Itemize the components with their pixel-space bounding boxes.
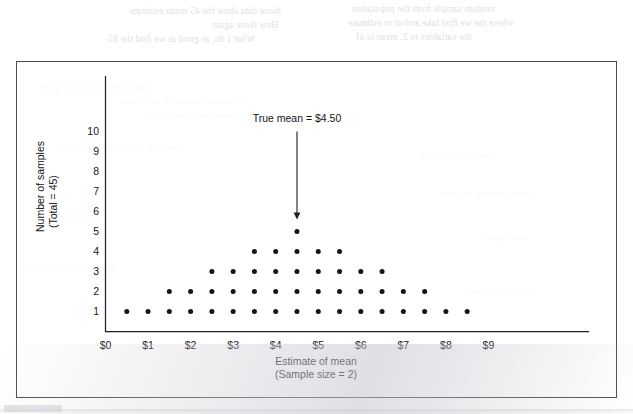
ghost-text-line: random sample from the population: [352, 4, 495, 14]
figure-frame: [16, 61, 617, 398]
ghost-text-line: How these again: [212, 20, 278, 30]
ghost-text-line: those data show the 45 mean estimate: [130, 6, 281, 16]
page-corner-mark: [4, 405, 62, 412]
page-edge-shadow: [0, 409, 633, 414]
ghost-text-line: What I do, as good as we find the $5: [108, 34, 255, 44]
ghost-text-line: the variables to 2. mean is of: [356, 32, 471, 42]
ghost-text-line: where the we first take and/or to estima…: [348, 18, 513, 28]
